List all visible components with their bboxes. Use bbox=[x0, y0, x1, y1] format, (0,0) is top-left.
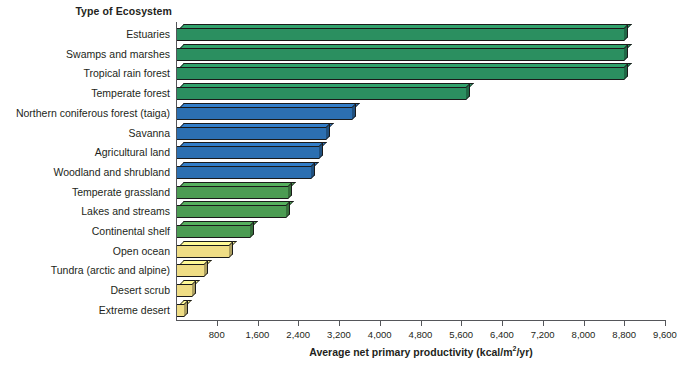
x-axis-tick bbox=[380, 321, 381, 326]
bar-side-face bbox=[184, 300, 188, 317]
bar-side-face bbox=[288, 182, 292, 199]
category-label: Continental shelf bbox=[0, 226, 170, 237]
bar-lakes-and-streams[interactable] bbox=[176, 205, 286, 218]
x-axis-tick bbox=[461, 321, 462, 326]
x-axis-title: Average net primary productivity (kcal/m… bbox=[176, 345, 666, 358]
plot-area bbox=[176, 22, 665, 320]
x-axis-tick bbox=[624, 321, 625, 326]
x-axis-tick-label: 5,600 bbox=[438, 329, 484, 340]
x-axis-tick bbox=[298, 321, 299, 326]
category-label: Temperate grassland bbox=[0, 187, 170, 198]
category-label: Northern coniferous forest (taiga) bbox=[0, 108, 170, 119]
x-axis-tick bbox=[502, 321, 503, 326]
bar-side-face bbox=[466, 83, 470, 100]
category-label: Savanna bbox=[0, 128, 170, 139]
bar-swamps-and-marshes[interactable] bbox=[176, 48, 624, 61]
category-label: Woodland and shrubland bbox=[0, 167, 170, 178]
category-label: Extreme desert bbox=[0, 305, 170, 316]
x-axis-tick bbox=[543, 321, 544, 326]
bar-front-face bbox=[176, 245, 229, 258]
bar-side-face bbox=[311, 162, 315, 179]
x-axis-tick bbox=[217, 321, 218, 326]
bar-front-face bbox=[176, 264, 204, 277]
bar-open-ocean[interactable] bbox=[176, 245, 229, 258]
bar-front-face bbox=[176, 225, 250, 238]
bar-top-face bbox=[180, 24, 632, 28]
bar-top-face bbox=[180, 221, 258, 225]
bar-top-face bbox=[180, 142, 327, 146]
bar-front-face bbox=[176, 146, 319, 159]
bar-front-face bbox=[176, 67, 624, 80]
bar-top-face bbox=[180, 44, 632, 48]
x-axis-title-superscript: 2 bbox=[513, 345, 517, 352]
category-label: Desert scrub bbox=[0, 285, 170, 296]
bar-continental-shelf[interactable] bbox=[176, 225, 250, 238]
bar-savanna[interactable] bbox=[176, 127, 326, 140]
x-axis-tick-label: 2,400 bbox=[275, 329, 321, 340]
bar-top-face bbox=[180, 63, 632, 67]
bar-top-face bbox=[180, 103, 360, 107]
bar-front-face bbox=[176, 48, 624, 61]
category-label: Swamps and marshes bbox=[0, 49, 170, 60]
bar-front-face bbox=[176, 205, 286, 218]
bar-desert-scrub[interactable] bbox=[176, 284, 192, 297]
bar-temperate-grassland[interactable] bbox=[176, 186, 288, 199]
x-axis-tick-label: 8,000 bbox=[561, 329, 607, 340]
x-axis-tick bbox=[339, 321, 340, 326]
x-axis-tick-label: 800 bbox=[194, 329, 240, 340]
category-label: Tundra (arctic and alpine) bbox=[0, 265, 170, 276]
bar-side-face bbox=[286, 201, 290, 218]
category-label: Open ocean bbox=[0, 246, 170, 257]
bar-front-face bbox=[176, 186, 288, 199]
x-axis-tick-label: 4,000 bbox=[357, 329, 403, 340]
bar-front-face bbox=[176, 127, 326, 140]
bar-front-face bbox=[176, 28, 624, 41]
x-axis-tick bbox=[421, 321, 422, 326]
bar-extreme-desert[interactable] bbox=[176, 304, 184, 317]
bar-side-face bbox=[624, 44, 628, 61]
category-label: Tropical rain forest bbox=[0, 68, 170, 79]
x-axis-tick bbox=[584, 321, 585, 326]
bar-side-face bbox=[326, 123, 330, 140]
bar-top-face bbox=[180, 162, 319, 166]
bar-tropical-rain-forest[interactable] bbox=[176, 67, 624, 80]
bar-side-face bbox=[192, 280, 196, 297]
bar-tundra-arctic-and-alpine[interactable] bbox=[176, 264, 204, 277]
bar-top-face bbox=[180, 201, 294, 205]
category-label-column: EstuariesSwamps and marshesTropical rain… bbox=[0, 22, 174, 320]
category-label: Agricultural land bbox=[0, 147, 170, 158]
bar-side-face bbox=[250, 221, 254, 238]
bar-front-face bbox=[176, 284, 192, 297]
category-label: Temperate forest bbox=[0, 88, 170, 99]
bar-northern-coniferous-forest-taiga[interactable] bbox=[176, 107, 352, 120]
bar-top-face bbox=[180, 83, 474, 87]
x-axis-tick-label: 1,600 bbox=[235, 329, 281, 340]
category-label: Lakes and streams bbox=[0, 206, 170, 217]
x-axis-tick bbox=[258, 321, 259, 326]
bar-estuaries[interactable] bbox=[176, 28, 624, 41]
bar-top-face bbox=[180, 182, 296, 186]
x-axis-tick-label: 4,800 bbox=[398, 329, 444, 340]
x-axis-tick bbox=[665, 321, 666, 326]
bar-woodland-and-shrubland[interactable] bbox=[176, 166, 311, 179]
bar-side-face bbox=[319, 142, 323, 159]
x-axis-tick-label: 3,200 bbox=[316, 329, 362, 340]
bar-side-face bbox=[204, 260, 208, 277]
bar-side-face bbox=[624, 63, 628, 80]
bar-side-face bbox=[229, 241, 233, 258]
bar-side-face bbox=[352, 103, 356, 120]
y-axis-title: Type of Ecosystem bbox=[0, 5, 176, 17]
bar-temperate-forest[interactable] bbox=[176, 87, 466, 100]
bar-front-face bbox=[176, 87, 466, 100]
x-axis-tick-label: 9,600 bbox=[642, 329, 677, 340]
x-axis-tick-label: 8,800 bbox=[601, 329, 647, 340]
bar-front-face bbox=[176, 304, 184, 317]
category-label: Estuaries bbox=[0, 29, 170, 40]
x-axis-tick-label: 7,200 bbox=[520, 329, 566, 340]
x-axis-tick-label: 6,400 bbox=[479, 329, 525, 340]
bar-agricultural-land[interactable] bbox=[176, 146, 319, 159]
bar-front-face bbox=[176, 166, 311, 179]
ecosystem-productivity-chart: Type of Ecosystem EstuariesSwamps and ma… bbox=[0, 0, 677, 367]
bar-top-face bbox=[180, 123, 334, 127]
bar-front-face bbox=[176, 107, 352, 120]
